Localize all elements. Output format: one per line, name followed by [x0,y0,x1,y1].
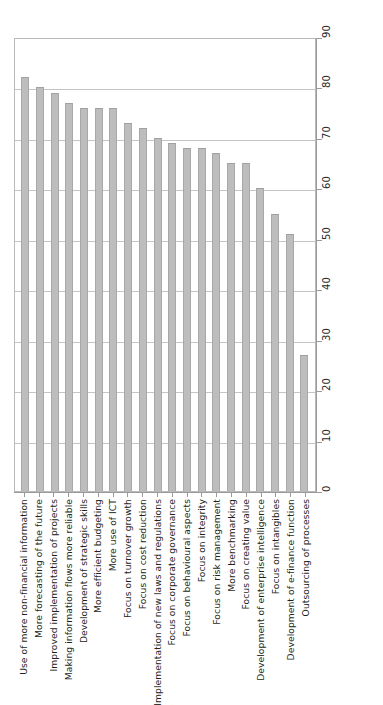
bar [198,148,206,491]
category-tick-mark [201,492,202,497]
category-labels: Use of more non-financial informationMor… [14,499,316,705]
bar [65,103,73,491]
category-tick-mark [83,492,84,497]
value-axis-spine [316,38,317,492]
category-label-slot: Improved implementation of projects [50,499,58,705]
bar [242,163,250,491]
value-tick-label: 10 [322,428,332,441]
value-tick-label: 20 [322,378,332,391]
category-label: Focus on cost reduction [138,499,147,609]
bar [21,77,29,491]
bar [256,188,264,491]
bar [36,87,44,491]
bar [300,355,308,491]
bar-chart: 0102030405060708090 Use of more non-fina… [0,0,383,705]
bars-group [15,39,315,491]
category-tick-mark [187,492,188,497]
bar [80,108,88,491]
category-label-slot: Focus on integrity [198,499,206,705]
category-label-slot: Focus on behavioural aspects [183,499,191,705]
bar [51,93,59,492]
category-label: Focus on risk management [212,499,221,625]
category-label-slot: More forecasting of the future [35,499,43,705]
category-label-slot: Focus on intangibles [272,499,280,705]
category-label-slot: Development of strategic skills [80,499,88,705]
value-tick-label: 60 [322,176,332,189]
category-tick-mark [290,492,291,497]
value-tick-mark-60 [316,189,322,190]
category-tick-mark [275,492,276,497]
value-tick-label: 90 [322,25,332,38]
category-label-slot: Focus on creating value [242,499,250,705]
category-tick-mark [216,492,217,497]
category-label: Development of strategic skills [79,499,88,643]
category-label-slot: More use of ICT [109,499,117,705]
bar [109,108,117,491]
value-tick-label: 70 [322,126,332,139]
category-tick-mark [127,492,128,497]
category-label: Making information flows more reliable [64,499,73,680]
category-label: Implementation of new laws and regulatio… [153,499,162,705]
value-tick-label: 30 [322,328,332,341]
category-tick-mark [231,492,232,497]
value-axis: 0102030405060708090 [316,38,356,492]
category-tick-mark [68,492,69,497]
category-label: Focus on integrity [197,499,206,582]
category-tick-mark [53,492,54,497]
category-label: More benchmarking [227,499,236,592]
value-tick-mark-20 [316,391,322,392]
category-label: More use of ICT [109,499,118,571]
category-label-slot: Outsourcing of processes [302,499,310,705]
bar [168,143,176,491]
bar [227,163,235,491]
value-tick-mark-70 [316,139,322,140]
category-label-slot: Focus on risk management [213,499,221,705]
bar [271,214,279,491]
category-label-slot: More efficient budgeting [94,499,102,705]
category-label-slot: Focus on cost reduction [139,499,147,705]
bar [95,108,103,491]
category-label-slot: Development of e-finance function [287,499,295,705]
bar [154,138,162,491]
category-tick-mark [98,492,99,497]
category-label-slot: Making information flows more reliable [65,499,73,705]
category-label: Development of e-finance function [286,499,295,660]
category-label: Focus on creating value [242,499,251,609]
category-label: Focus on corporate governance [168,499,177,646]
category-tick-mark [39,492,40,497]
value-tick-mark-90 [316,38,322,39]
category-label: Focus on behavioural aspects [183,499,192,637]
category-label: Focus on intangibles [271,499,280,594]
category-tick-mark [142,492,143,497]
category-label: Development of enterprise intelligence [257,499,266,681]
category-tick-mark [261,492,262,497]
category-label-slot: Development of enterprise intelligence [257,499,265,705]
value-tick-mark-40 [316,290,322,291]
category-tick-mark [172,492,173,497]
category-label: More efficient budgeting [94,499,103,613]
category-label: Use of more non-financial information [20,499,29,675]
category-tick-mark [113,492,114,497]
value-tick-mark-80 [316,88,322,89]
category-label: Improved implementation of projects [49,499,58,671]
bar [183,148,191,491]
category-tick-marks [14,492,316,497]
category-label: Outsourcing of processes [301,499,310,616]
category-axis: Use of more non-financial informationMor… [14,492,316,705]
value-tick-label: 0 [322,485,332,492]
value-tick-mark-0 [316,492,322,493]
category-tick-mark [157,492,158,497]
category-label-slot: Focus on turnover growth [124,499,132,705]
category-label: More forecasting of the future [35,499,44,638]
bar [139,128,147,491]
category-label: Focus on turnover growth [123,499,132,618]
bar [212,153,220,491]
value-tick-label: 40 [322,277,332,290]
bar [124,123,132,491]
category-tick-mark [246,492,247,497]
category-label-slot: Focus on corporate governance [168,499,176,705]
category-tick-mark [305,492,306,497]
value-tick-label: 50 [322,227,332,240]
category-label-slot: Implementation of new laws and regulatio… [154,499,162,705]
category-label-slot: More benchmarking [228,499,236,705]
